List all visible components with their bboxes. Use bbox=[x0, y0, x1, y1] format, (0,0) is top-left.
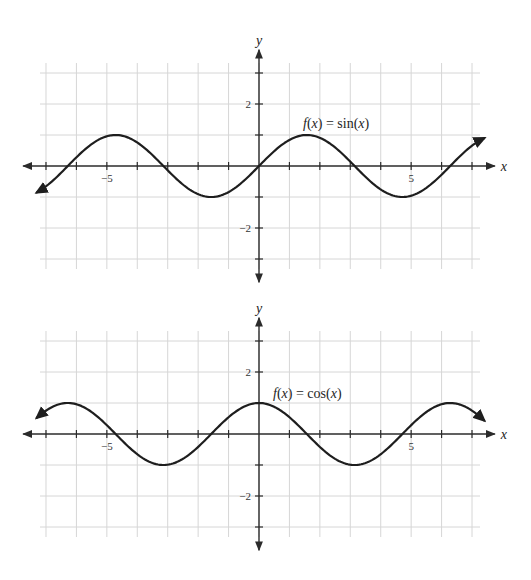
y-tick-label: 2 bbox=[246, 366, 252, 378]
sine-function-label: f(x) = sin(x) bbox=[303, 116, 370, 132]
sine-y-axis-label: y bbox=[254, 33, 263, 48]
y-tick-label: 2 bbox=[246, 98, 252, 110]
sine-graph: −552−2 x y f(x) = sin(x) bbox=[23, 33, 508, 283]
cosine-y-axis-label: y bbox=[254, 301, 263, 316]
cosine-graph: −552−2 x y f(x) = cos(x) bbox=[23, 301, 508, 551]
sine-x-axis-label: x bbox=[500, 159, 508, 174]
cosine-x-axis-label: x bbox=[500, 427, 508, 442]
function-label-part: ) = cos( bbox=[288, 386, 331, 402]
graphs-canvas: −552−2 x y f(x) = sin(x) −552−2 x y f(x)… bbox=[0, 0, 531, 580]
function-label-part: ) bbox=[337, 386, 342, 402]
cosine-function-label: f(x) = cos(x) bbox=[273, 386, 342, 402]
function-label-part: ) bbox=[365, 116, 370, 132]
x-tick-label: −5 bbox=[101, 440, 113, 452]
x-tick-label: −5 bbox=[101, 172, 113, 184]
x-tick-label: 5 bbox=[408, 440, 414, 452]
function-label-part: ) = sin( bbox=[318, 116, 359, 132]
y-tick-label: −2 bbox=[239, 490, 251, 502]
x-tick-label: 5 bbox=[408, 172, 414, 184]
cosine-axes bbox=[23, 318, 495, 551]
y-tick-label: −2 bbox=[239, 222, 251, 234]
